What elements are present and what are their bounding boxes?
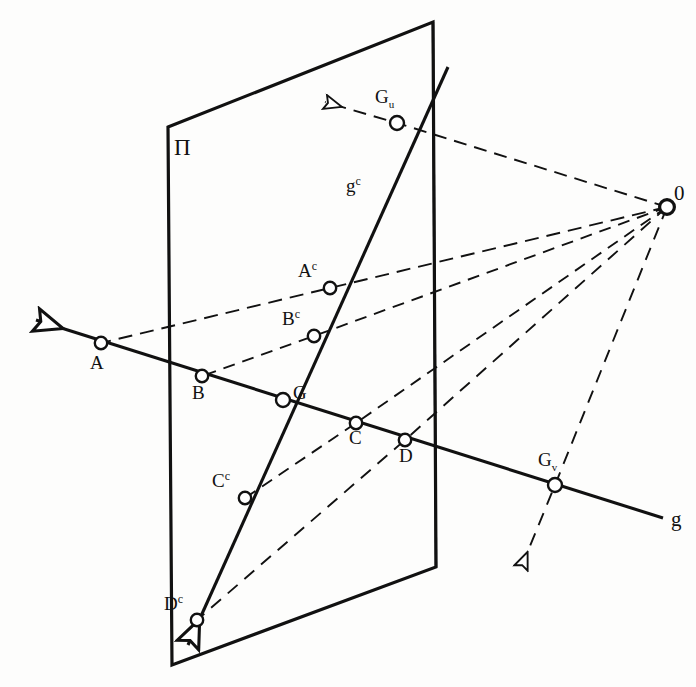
- point-marker-Dc: [191, 614, 203, 626]
- ray-to-point-d: [197, 207, 667, 620]
- point-marker-G: [276, 393, 290, 407]
- label-projection-centre-o: 0: [674, 183, 685, 204]
- point-marker-A: [95, 337, 107, 349]
- ray-to-point-a: [101, 207, 667, 343]
- label-point-gu-subscript: u: [389, 98, 395, 110]
- label-point-bc-base: B: [282, 308, 295, 329]
- ray-to-vanishing-point-gu: [325, 102, 667, 207]
- line-g-projected: [188, 67, 448, 645]
- plane-pi-right-edge: [433, 22, 436, 567]
- point-marker-Gu: [390, 116, 404, 130]
- point-marker-Cc: [239, 492, 251, 504]
- projection-rays-group: [101, 102, 667, 620]
- point-marker-O: [660, 200, 675, 215]
- label-point-cc-superscript: c: [225, 469, 230, 483]
- label-point-b: B: [192, 383, 205, 402]
- label-line-g: g: [671, 509, 682, 530]
- label-point-bc-superscript: c: [295, 307, 300, 321]
- label-point-gv-base: G: [538, 449, 552, 470]
- label-point-ac-base: A: [298, 260, 312, 281]
- label-point-ac: Ac: [298, 261, 317, 280]
- label-point-d: D: [399, 446, 413, 465]
- label-line-gc: gc: [346, 176, 361, 195]
- label-point-dc-base: D: [164, 593, 178, 614]
- label-point-gv: Gv: [538, 450, 557, 469]
- label-point-cc: Cc: [212, 471, 230, 490]
- label-point-gu: Gu: [375, 87, 394, 106]
- label-point-g: G: [293, 383, 307, 402]
- label-point-cc-base: C: [212, 470, 225, 491]
- label-line-gc-superscript: c: [356, 174, 361, 188]
- label-point-ac-superscript: c: [312, 259, 317, 273]
- label-point-c: C: [349, 428, 362, 447]
- projection-diagram: Π 0 g gc A B G C D Gv Gu Ac Bc Cc Dc: [0, 0, 696, 687]
- label-point-gu-base: G: [375, 86, 389, 107]
- label-line-gc-base: g: [346, 175, 356, 196]
- label-point-a: A: [90, 353, 104, 372]
- label-point-dc-superscript: c: [178, 592, 183, 606]
- point-marker-Ac: [324, 282, 336, 294]
- diagram-canvas: [0, 0, 696, 687]
- point-marker-Bc: [308, 330, 320, 342]
- point-marker-Gv: [548, 478, 562, 492]
- point-marker-B: [196, 370, 208, 382]
- label-point-gv-subscript: v: [552, 461, 558, 473]
- label-point-bc: Bc: [282, 309, 300, 328]
- label-plane-pi: Π: [174, 136, 191, 159]
- point-markers-group: [95, 116, 675, 626]
- ray-to-point-c: [245, 207, 667, 498]
- label-point-dc: Dc: [164, 594, 183, 613]
